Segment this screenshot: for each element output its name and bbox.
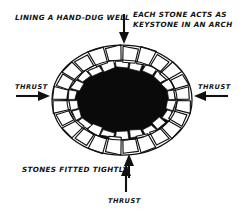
well-illustration	[52, 45, 192, 155]
arrow-left-thrust	[16, 91, 50, 101]
well-stone	[166, 101, 176, 111]
label-stones-fitted-tightly: STONES FITTED TIGHTLY	[22, 165, 129, 174]
label-keystone-in-an-arch: KEYSTONE IN AN ARCH	[133, 20, 233, 29]
label-each-stone-acts-as: EACH STONE ACTS AS	[133, 10, 227, 19]
label-left-thrust: THRUST	[15, 83, 48, 91]
well-stone	[123, 139, 138, 154]
label-lining-a-hand-dug-well: LINING A HAND-DUG WELL	[15, 13, 130, 22]
arrow-right-thrust	[194, 91, 228, 101]
label-bottom-thrust: THRUST	[108, 197, 141, 205]
well-stone	[106, 45, 122, 61]
well-lining-diagram: LINING A HAND-DUG WELL EACH STONE ACTS A…	[0, 0, 244, 212]
label-right-thrust: THRUST	[198, 83, 231, 91]
